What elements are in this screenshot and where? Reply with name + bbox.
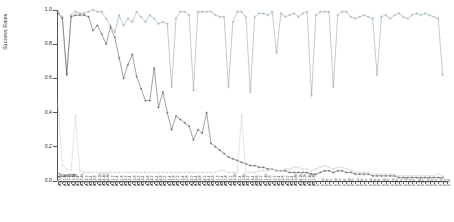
data-point-marker: [254, 165, 256, 167]
data-point-marker: [162, 21, 164, 23]
data-point-marker: [131, 21, 133, 23]
data-point-marker: [162, 172, 164, 174]
y-tick-label: 0.0: [32, 178, 52, 183]
data-point-marker: [118, 172, 120, 174]
data-point-marker: [166, 172, 168, 174]
data-point-marker: [315, 168, 317, 170]
data-point-marker: [62, 165, 64, 167]
data-point-marker: [354, 18, 356, 20]
data-point-marker: [144, 100, 146, 102]
y-tick-label: 1.0: [32, 7, 52, 12]
data-point-marker: [333, 168, 335, 170]
data-point-marker: [153, 172, 155, 174]
data-point-marker: [337, 14, 339, 16]
data-point-marker: [350, 16, 352, 18]
data-point-marker: [201, 172, 203, 174]
data-point-marker: [149, 14, 151, 16]
data-point-marker: [341, 170, 343, 172]
data-point-marker: [223, 170, 225, 172]
data-point-marker: [219, 16, 221, 18]
data-point-marker: [393, 175, 395, 177]
data-point-marker: [324, 170, 326, 172]
data-point-marker: [354, 173, 356, 175]
data-point-marker: [258, 13, 260, 15]
data-point-marker: [315, 14, 317, 16]
data-point-marker: [92, 29, 94, 31]
data-point-marker: [171, 129, 173, 131]
data-point-marker: [240, 161, 242, 163]
data-point-marker: [263, 13, 265, 15]
data-point-marker: [210, 11, 212, 13]
data-point-marker: [210, 172, 212, 174]
data-point-marker: [424, 13, 426, 15]
data-point-marker: [214, 146, 216, 148]
data-point-marker: [385, 14, 387, 16]
data-point-marker: [180, 11, 182, 13]
y-tick-label: 0.4: [32, 110, 52, 115]
data-point-marker: [145, 172, 147, 174]
data-point-marker: [79, 13, 81, 15]
series-line: [58, 104, 443, 176]
data-point-marker: [385, 175, 387, 177]
data-point-marker: [411, 14, 413, 16]
data-point-marker: [127, 64, 129, 66]
data-point-marker: [136, 172, 138, 174]
data-point-marker: [193, 90, 195, 92]
data-point-marker: [380, 175, 382, 177]
data-point-marker: [276, 52, 278, 54]
data-point-marker: [110, 25, 112, 27]
data-point-marker: [306, 11, 308, 13]
data-point-marker: [376, 173, 378, 175]
data-point-marker: [389, 18, 391, 20]
data-point-marker: [381, 173, 383, 175]
data-point-marker: [442, 74, 444, 76]
data-point-marker: [289, 168, 291, 170]
data-point-marker: [227, 156, 229, 158]
data-point-marker: [337, 166, 339, 168]
y-tick: [53, 112, 57, 113]
data-point-marker: [62, 16, 64, 18]
y-tick-label: 0.8: [32, 41, 52, 46]
data-point-marker: [298, 166, 300, 168]
data-point-marker: [276, 170, 278, 172]
data-point-marker: [271, 168, 273, 170]
data-point-marker: [123, 172, 125, 174]
data-point-marker: [346, 168, 348, 170]
data-point-marker: [420, 14, 422, 16]
data-point-marker: [407, 175, 409, 177]
y-tick: [53, 10, 57, 11]
data-point-marker: [96, 24, 98, 26]
data-point-marker: [367, 172, 369, 174]
data-point-marker: [140, 16, 142, 18]
data-series-layer: [0, 0, 454, 222]
data-point-marker: [184, 11, 186, 13]
data-point-marker: [149, 100, 151, 102]
data-point-marker: [158, 23, 160, 25]
data-point-marker: [166, 23, 168, 25]
series-line: [58, 10, 443, 96]
data-point-marker: [416, 13, 418, 15]
data-point-marker: [254, 172, 256, 174]
data-point-marker: [429, 175, 431, 177]
data-point-marker: [280, 170, 282, 172]
data-point-marker: [184, 172, 186, 174]
data-point-marker: [437, 18, 439, 20]
data-point-marker: [284, 168, 286, 170]
data-point-marker: [245, 16, 247, 18]
data-point-marker: [92, 9, 94, 11]
data-point-marker: [271, 168, 273, 170]
data-point-marker: [171, 172, 173, 174]
data-point-marker: [101, 33, 103, 35]
data-point-marker: [385, 173, 387, 175]
data-point-marker: [114, 36, 116, 38]
data-point-marker: [118, 14, 120, 16]
y-tick: [53, 181, 57, 182]
data-point-marker: [363, 173, 365, 175]
data-point-marker: [175, 172, 177, 174]
data-point-marker: [175, 115, 177, 117]
series-series-mid: [57, 12, 444, 178]
data-point-marker: [158, 172, 160, 174]
data-point-marker: [66, 72, 68, 74]
data-point-marker: [271, 11, 273, 13]
data-point-marker: [74, 14, 76, 16]
